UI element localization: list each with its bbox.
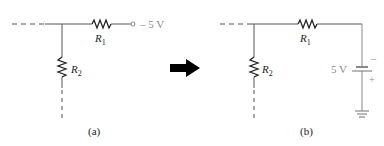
caption-b: (b) [300, 125, 313, 138]
circuit-diagram: – 5 V R1 R2 (a) R1 R2 5 V – + [0, 0, 384, 146]
r1-label-b: R1 [299, 32, 311, 47]
battery-label: 5 V [331, 63, 347, 75]
battery-plus-sign: + [369, 74, 375, 85]
battery-minus-sign: – [370, 53, 377, 64]
caption-a: (a) [88, 125, 101, 138]
resistor-r2-a-icon [58, 57, 66, 77]
resistor-r2-b-icon [250, 57, 258, 77]
resistor-r1-b-icon [298, 20, 317, 28]
r1-label-a: R1 [94, 32, 106, 47]
r2-label-b: R2 [261, 63, 273, 78]
r2-label-a: R2 [70, 63, 82, 78]
resistor-r1-a-icon [92, 20, 111, 28]
circuit-b: R1 R2 5 V – + (b) [220, 20, 377, 138]
terminal-circle-icon [131, 22, 135, 26]
circuit-a: – 5 V R1 R2 (a) [12, 18, 164, 138]
source-label-a: – 5 V [139, 18, 164, 30]
transform-arrow-icon [170, 59, 200, 77]
ground-icon [355, 111, 369, 117]
